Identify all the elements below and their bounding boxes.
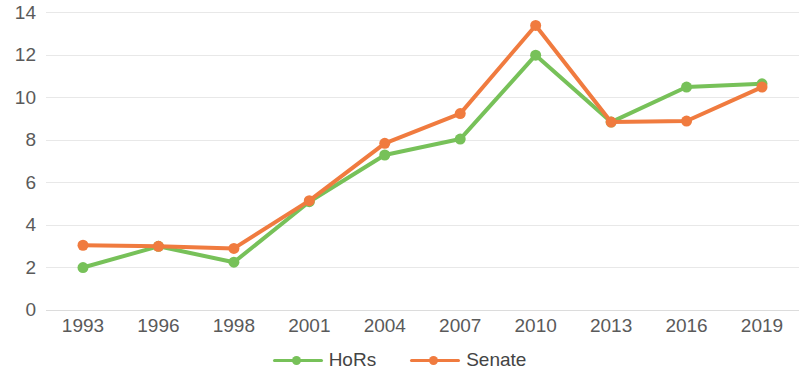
plot-area: 02468101214	[46, 0, 799, 310]
series-layer	[46, 0, 799, 310]
y-axis-tick-label: 4	[0, 215, 36, 234]
x-axis-tick-label: 2019	[741, 316, 783, 335]
x-axis-tick-label: 1993	[62, 316, 104, 335]
x-axis-tick-label: 1996	[137, 316, 179, 335]
data-point[interactable]	[78, 262, 89, 273]
series-line	[83, 55, 762, 267]
series-hors	[78, 50, 768, 273]
data-point[interactable]	[228, 257, 239, 268]
data-point[interactable]	[78, 240, 89, 251]
y-axis-tick-label: 8	[0, 130, 36, 149]
x-axis-tick-label: 2016	[665, 316, 707, 335]
y-axis-tick-label: 6	[0, 173, 36, 192]
data-point[interactable]	[455, 108, 466, 119]
chart-legend: HoRsSenate	[0, 350, 799, 369]
x-axis-tick-label: 2013	[590, 316, 632, 335]
data-point[interactable]	[455, 134, 466, 145]
data-point[interactable]	[379, 150, 390, 161]
data-point[interactable]	[379, 138, 390, 149]
data-point[interactable]	[681, 82, 692, 93]
legend-label: Senate	[466, 350, 526, 369]
data-point[interactable]	[606, 117, 617, 128]
x-axis-tick-label: 2007	[439, 316, 481, 335]
data-point[interactable]	[304, 195, 315, 206]
line-chart: 02468101214 1993199619982001200420072010…	[0, 0, 799, 377]
y-axis-tick-label: 2	[0, 258, 36, 277]
x-axis-tick-label: 1998	[213, 316, 255, 335]
legend-item-hors[interactable]: HoRs	[273, 350, 377, 369]
data-point[interactable]	[153, 241, 164, 252]
x-axis-tick-label: 2010	[515, 316, 557, 335]
legend-marker-icon	[273, 353, 323, 367]
legend-label: HoRs	[329, 350, 377, 369]
data-point[interactable]	[530, 20, 541, 31]
data-point[interactable]	[757, 82, 768, 93]
legend-item-senate[interactable]: Senate	[410, 350, 526, 369]
series-senate	[78, 20, 768, 254]
data-point[interactable]	[530, 50, 541, 61]
x-axis-tick-labels: 1993199619982001200420072010201320162019	[46, 316, 799, 344]
data-point[interactable]	[681, 116, 692, 127]
legend-marker-icon	[410, 353, 460, 367]
data-point[interactable]	[228, 243, 239, 254]
y-axis-tick-label: 0	[0, 300, 36, 319]
y-axis-tick-label: 14	[0, 3, 36, 22]
y-axis-tick-label: 10	[0, 88, 36, 107]
x-axis-tick-label: 2001	[288, 316, 330, 335]
series-line	[83, 25, 762, 248]
x-axis-tick-label: 2004	[364, 316, 406, 335]
y-axis-tick-label: 12	[0, 45, 36, 64]
